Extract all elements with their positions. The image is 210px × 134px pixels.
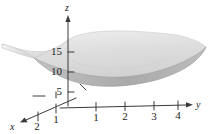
z-tick-label-10: 10 [46, 66, 62, 77]
back-grid-stub-c [80, 84, 86, 90]
z-axis-label: z [65, 3, 69, 13]
z-tick-label-5: 5 [46, 86, 62, 97]
y-tick-label-3: 3 [149, 111, 159, 122]
surface-plot-figure: 15 10 5 z 1 2 3 4 y 1 2 x [0, 0, 210, 134]
y-tick-label-1: 1 [91, 112, 101, 123]
z-tick-label-15: 15 [46, 46, 62, 57]
z-axis-arrowhead [65, 15, 70, 22]
y-axis-arrowhead [186, 102, 193, 107]
y-tick-label-2: 2 [120, 111, 130, 122]
x-tick-label-2: 2 [32, 121, 42, 132]
x-axis-label: x [10, 122, 14, 132]
y-tick-label-4: 4 [173, 110, 183, 121]
y-axis-label: y [196, 100, 200, 110]
y-axis-line [60, 105, 186, 108]
surface-patch [2, 31, 206, 86]
x-tick-label-1: 1 [51, 114, 61, 125]
